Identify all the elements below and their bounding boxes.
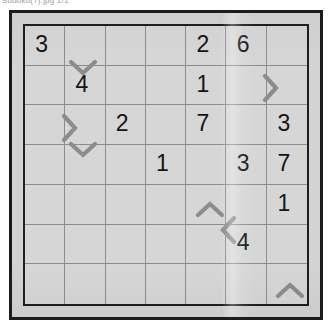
grid-cell-value: 7 [196, 112, 209, 135]
puzzle-outer-frame: 3264127313714 [9, 10, 323, 320]
grid-cell-value: 4 [237, 231, 250, 254]
grid-cell[interactable] [25, 145, 65, 185]
puzzle-grid: 3264127313714 [25, 26, 307, 304]
grid-cell[interactable] [186, 225, 226, 265]
grid-cell[interactable] [146, 105, 186, 145]
grid-cell[interactable]: 4 [65, 66, 105, 106]
grid-cell[interactable] [106, 264, 146, 304]
grid-cell[interactable] [106, 66, 146, 106]
puzzle-grid-border: 3264127313714 [23, 24, 309, 306]
grid-cell[interactable] [25, 66, 65, 106]
grid-cell[interactable] [25, 185, 65, 225]
grid-cell[interactable] [106, 145, 146, 185]
grid-cell[interactable] [25, 264, 65, 304]
grid-cell[interactable] [65, 264, 105, 304]
grid-cell-value: 4 [76, 73, 89, 96]
screenshot-root: Sudoku(7).jpg 1/1 3264127313714 [0, 0, 334, 331]
grid-cell[interactable]: 1 [186, 66, 226, 106]
grid-cell[interactable]: 2 [186, 26, 226, 66]
grid-cell[interactable] [186, 185, 226, 225]
grid-cell[interactable]: 7 [186, 105, 226, 145]
grid-cell[interactable] [267, 264, 307, 304]
grid-cell[interactable]: 1 [267, 185, 307, 225]
grid-cell-value: 1 [277, 192, 290, 215]
grid-cell[interactable] [106, 225, 146, 265]
grid-cell[interactable] [25, 105, 65, 145]
grid-cell[interactable]: 2 [106, 105, 146, 145]
grid-cell[interactable] [186, 264, 226, 304]
grid-cell[interactable] [267, 66, 307, 106]
grid-cell-value: 2 [116, 112, 129, 135]
grid-cell[interactable]: 4 [226, 225, 266, 265]
grid-cell[interactable]: 1 [146, 145, 186, 185]
grid-cell[interactable] [226, 264, 266, 304]
grid-cell[interactable]: 7 [267, 145, 307, 185]
grid-cell[interactable] [226, 66, 266, 106]
grid-cell[interactable] [25, 225, 65, 265]
grid-cell[interactable] [146, 185, 186, 225]
grid-cell-value: 1 [196, 73, 209, 96]
grid-cell[interactable] [106, 26, 146, 66]
grid-cell[interactable]: 3 [226, 145, 266, 185]
grid-cell-value: 6 [237, 33, 250, 56]
grid-cell-value: 7 [277, 152, 290, 175]
grid-cell-value: 1 [156, 152, 169, 175]
grid-cell[interactable] [186, 145, 226, 185]
grid-cell[interactable] [267, 26, 307, 66]
grid-cell[interactable] [65, 145, 105, 185]
grid-cell[interactable] [106, 185, 146, 225]
grid-cell[interactable] [146, 264, 186, 304]
grid-cell[interactable] [146, 225, 186, 265]
grid-cell[interactable] [146, 26, 186, 66]
grid-cell[interactable]: 3 [267, 105, 307, 145]
grid-cell[interactable]: 6 [226, 26, 266, 66]
grid-cell-value: 3 [277, 112, 290, 135]
grid-cell[interactable] [226, 105, 266, 145]
grid-cell[interactable] [65, 105, 105, 145]
grid-cell[interactable]: 3 [25, 26, 65, 66]
image-caption: Sudoku(7).jpg 1/1 [2, 0, 152, 6]
grid-cell-value: 3 [237, 152, 250, 175]
grid-cell[interactable] [267, 225, 307, 265]
grid-cell-value: 2 [196, 33, 209, 56]
grid-cell[interactable] [65, 26, 105, 66]
grid-cell[interactable] [146, 66, 186, 106]
grid-cell-value: 3 [35, 33, 48, 56]
grid-cell[interactable] [226, 185, 266, 225]
grid-cell[interactable] [65, 225, 105, 265]
grid-cell[interactable] [65, 185, 105, 225]
